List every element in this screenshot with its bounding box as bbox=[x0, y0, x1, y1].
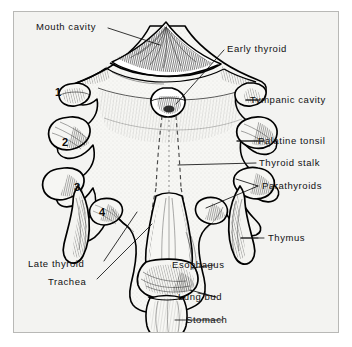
label-lung-bud: Lung bud bbox=[178, 292, 222, 302]
label-thymus: Thymus bbox=[268, 233, 305, 243]
label-mouth-cavity: Mouth cavity bbox=[36, 22, 96, 32]
pouch-number-4: 4 bbox=[99, 207, 105, 218]
anatomy-illustration bbox=[0, 0, 352, 347]
label-parathyroids: Parathyroids bbox=[262, 181, 322, 191]
pouch-number-1: 1 bbox=[55, 87, 61, 98]
label-tympanic-cavity: Tympanic cavity bbox=[250, 95, 326, 105]
label-esophagus: Esophagus bbox=[172, 260, 225, 270]
label-stomach: Stomach bbox=[186, 315, 227, 325]
label-trachea: Trachea bbox=[48, 277, 86, 287]
pouch-number-2: 2 bbox=[62, 137, 68, 148]
label-late-thyroid: Late thyroid bbox=[28, 259, 84, 269]
pouch-number-3: 3 bbox=[74, 182, 80, 193]
label-palatine-tonsil: Palatine tonsil bbox=[258, 136, 325, 146]
label-early-thyroid: Early thyroid bbox=[227, 44, 287, 54]
label-thyroid-stalk: Thyroid stalk bbox=[259, 158, 320, 168]
embryology-figure: Mouth cavity Early thyroid Tympanic cavi… bbox=[0, 0, 352, 347]
